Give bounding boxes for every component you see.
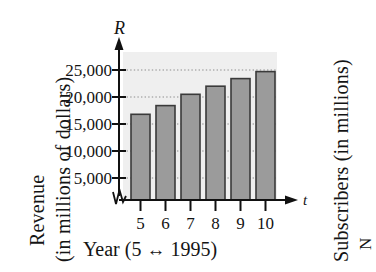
x-tick-marks: [141, 200, 266, 211]
x-axis-tick-labels: 5 6 7 8 9 10: [0, 214, 368, 236]
double-arrow-icon: ↔: [146, 239, 165, 260]
bar-year-8: [206, 86, 225, 200]
y-axis-arrowhead: [115, 37, 124, 50]
x-axis-caption-suffix: 1995): [165, 238, 217, 260]
bar-series: [131, 72, 275, 200]
x-tick-label: 6: [153, 214, 179, 234]
x-axis-arrowhead: [285, 196, 298, 205]
x-axis-caption-prefix: Year (5: [83, 238, 147, 260]
axis-break-zigzag: [113, 190, 126, 204]
x-tick-label: 9: [228, 214, 254, 234]
bar-year-9: [231, 79, 250, 200]
bar-year-10: [256, 72, 275, 200]
x-axis-caption: Year (5 ↔ 1995): [0, 238, 300, 261]
bar-year-6: [156, 106, 175, 200]
x-tick-label: 7: [178, 214, 204, 234]
x-tick-label: 5: [128, 214, 154, 234]
bar-year-5: [131, 114, 150, 200]
x-tick-label: 10: [253, 214, 279, 234]
x-tick-label: 8: [203, 214, 229, 234]
bar-year-7: [181, 94, 200, 200]
